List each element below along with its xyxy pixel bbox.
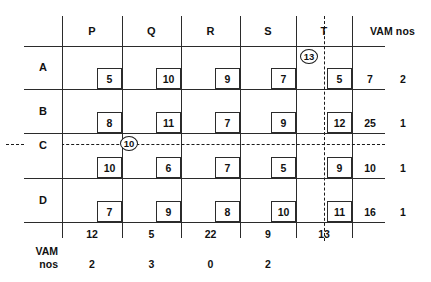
vam-nos-column-header: VAM nos	[370, 25, 415, 37]
column-header-t: T	[296, 25, 352, 37]
cost-cell-c-p: 10	[97, 157, 122, 178]
column-demand-s: 9	[240, 228, 296, 240]
cost-cell-c-t: 9	[327, 157, 352, 178]
column-vam-p: 2	[62, 258, 122, 270]
grid-vline-r-s	[240, 16, 241, 238]
dashed-vline-column-t	[324, 16, 325, 241]
column-demand-r: 22	[181, 228, 240, 240]
cost-cell-b-s: 9	[271, 112, 296, 133]
cost-cell-b-t: 12	[327, 112, 352, 133]
cost-cell-d-s: 10	[271, 201, 296, 222]
grid-vline-s-t	[296, 16, 297, 238]
grid-hline-row-d-bottom	[24, 222, 385, 223]
cost-cell-d-r: 8	[215, 201, 240, 222]
row-supply-d: 16	[355, 206, 385, 218]
row-supply-b: 25	[355, 117, 385, 129]
allocation-circle-c-q: 10	[120, 136, 138, 151]
allocation-circle-a-t: 13	[300, 49, 318, 64]
column-demand-p: 12	[62, 228, 122, 240]
column-vam-r: 0	[181, 258, 240, 270]
column-header-q: Q	[122, 25, 181, 37]
cost-cell-d-t: 11	[327, 201, 352, 222]
row-supply-a: 7	[355, 73, 385, 85]
column-header-r: R	[181, 25, 240, 37]
cost-cell-a-t: 5	[327, 68, 352, 89]
dashed-hline-row-c	[6, 144, 385, 145]
row-header-c: C	[24, 139, 62, 151]
grid-hline-header-bottom	[24, 46, 385, 47]
column-vam-q: 3	[122, 258, 181, 270]
cost-cell-b-r: 7	[215, 112, 240, 133]
row-supply-c: 10	[355, 162, 385, 174]
grid-vline-p-q	[122, 16, 123, 238]
cost-cell-b-q: 11	[156, 112, 181, 133]
grid-vline-left-border	[62, 16, 63, 238]
column-header-p: P	[62, 25, 122, 37]
grid-hline-row-b-bottom	[24, 133, 385, 134]
column-demand-q: 5	[122, 228, 181, 240]
vam-nos-row-footer-label: VAM nos	[8, 245, 58, 271]
row-header-d: D	[24, 194, 62, 206]
column-demand-t: 13	[296, 228, 352, 240]
cost-cell-a-s: 7	[271, 68, 296, 89]
cost-cell-d-p: 7	[97, 201, 122, 222]
cost-cell-a-p: 5	[97, 68, 122, 89]
grid-hline-row-a-bottom	[24, 89, 385, 90]
column-vam-s: 2	[240, 258, 296, 270]
cost-cell-c-q: 6	[156, 157, 181, 178]
cost-cell-c-r: 7	[215, 157, 240, 178]
row-vam-a: 2	[392, 73, 414, 85]
row-vam-b: 1	[392, 117, 414, 129]
row-header-b: B	[24, 105, 62, 117]
grid-vline-t-right	[352, 16, 353, 238]
cost-cell-c-s: 5	[271, 157, 296, 178]
cost-cell-d-q: 9	[156, 201, 181, 222]
row-vam-d: 1	[392, 206, 414, 218]
grid-hline-row-c-bottom	[24, 178, 385, 179]
cost-cell-a-r: 9	[215, 68, 240, 89]
row-vam-c: 1	[392, 162, 414, 174]
vam-transportation-table: P Q R S T VAM nos A B C D 5 10 9 7 5 8 1…	[0, 0, 431, 282]
cost-cell-a-q: 10	[156, 68, 181, 89]
cost-cell-b-p: 8	[97, 112, 122, 133]
column-header-s: S	[240, 25, 296, 37]
vam-nos-footer-line-2: nos	[8, 258, 58, 271]
vam-nos-footer-line-1: VAM	[8, 245, 58, 258]
grid-vline-q-r	[181, 16, 182, 238]
row-header-a: A	[24, 61, 62, 73]
